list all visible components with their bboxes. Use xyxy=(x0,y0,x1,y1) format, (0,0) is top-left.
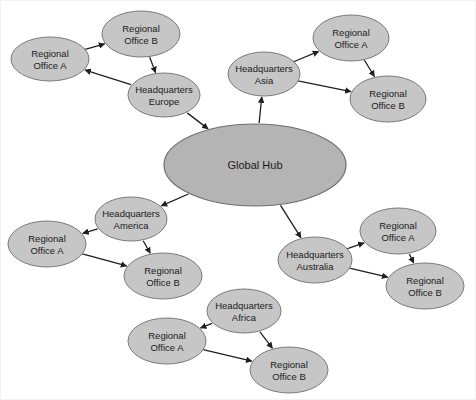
node-shape xyxy=(95,197,167,241)
edge-hq-europe-to-global-hub xyxy=(187,113,208,129)
node-shape xyxy=(313,15,389,61)
edge-hq-america-to-america-office-a xyxy=(83,229,98,233)
edge-hq-asia-to-asia-office-b xyxy=(299,81,351,91)
edge-hq-america-to-america-office-b xyxy=(143,241,150,254)
hq-node-america[interactable]: HeadquartersAmerica xyxy=(95,197,167,241)
node-shape xyxy=(124,253,202,299)
edge-global-hub-to-hq-australia xyxy=(280,205,300,237)
office-node-europe-office-a[interactable]: RegionalOffice A xyxy=(11,37,89,81)
nodes-layer: Global HubHeadquartersEuropeRegionalOffi… xyxy=(8,11,464,393)
office-node-america-office-a[interactable]: RegionalOffice A xyxy=(8,221,86,267)
edge-america-office-a-to-america-office-b xyxy=(83,254,126,266)
node-shape xyxy=(11,37,89,81)
node-shape xyxy=(386,263,464,309)
node-shape xyxy=(8,221,86,267)
edge-asia-office-a-to-asia-office-b xyxy=(365,60,375,76)
hq-node-europe[interactable]: HeadquartersEurope xyxy=(128,73,200,117)
office-node-africa-office-b[interactable]: RegionalOffice B xyxy=(250,347,328,393)
edge-africa-office-a-to-africa-office-b xyxy=(204,350,252,361)
node-shape xyxy=(128,73,200,117)
edge-hq-africa-to-africa-office-b xyxy=(260,332,272,348)
edge-europe-office-a-to-europe-office-b xyxy=(86,44,105,49)
edge-global-hub-to-hq-america xyxy=(161,194,188,206)
node-shape xyxy=(278,237,352,283)
hub-node-global-hub[interactable]: Global Hub xyxy=(164,124,346,206)
node-shape xyxy=(102,11,180,57)
office-node-australia-office-a[interactable]: RegionalOffice A xyxy=(360,208,436,254)
node-shape xyxy=(250,347,328,393)
office-node-america-office-b[interactable]: RegionalOffice B xyxy=(124,253,202,299)
office-node-australia-office-b[interactable]: RegionalOffice B xyxy=(386,263,464,309)
hq-node-australia[interactable]: HeadquartersAustralia xyxy=(278,237,352,283)
edge-hq-australia-to-australia-office-a xyxy=(348,243,364,249)
office-node-europe-office-b[interactable]: RegionalOffice B xyxy=(102,11,180,57)
edge-australia-office-a-to-australia-office-b xyxy=(409,254,413,263)
node-shape xyxy=(360,208,436,254)
node-shape xyxy=(228,52,300,96)
hub-shape xyxy=(164,124,346,206)
office-node-africa-office-a[interactable]: RegionalOffice A xyxy=(128,318,206,364)
network-graph: Global HubHeadquartersEuropeRegionalOffi… xyxy=(1,1,476,400)
node-shape xyxy=(207,289,281,333)
edge-hq-africa-to-africa-office-a xyxy=(201,323,213,327)
edge-hq-europe-to-europe-office-a xyxy=(85,70,131,85)
office-node-asia-office-a[interactable]: RegionalOffice A xyxy=(313,15,389,61)
hq-node-africa[interactable]: HeadquartersAfrica xyxy=(207,289,281,333)
edge-hq-asia-to-asia-office-a xyxy=(295,51,319,61)
node-shape xyxy=(128,318,206,364)
edge-hq-australia-to-australia-office-b xyxy=(351,268,388,277)
edge-global-hub-to-hq-asia xyxy=(259,97,262,123)
node-shape xyxy=(350,76,426,122)
network-diagram-canvas: Global HubHeadquartersEuropeRegionalOffi… xyxy=(0,0,476,400)
office-node-asia-office-b[interactable]: RegionalOffice B xyxy=(350,76,426,122)
edge-europe-office-b-to-hq-europe xyxy=(150,57,156,72)
hq-node-asia[interactable]: HeadquartersAsia xyxy=(228,52,300,96)
